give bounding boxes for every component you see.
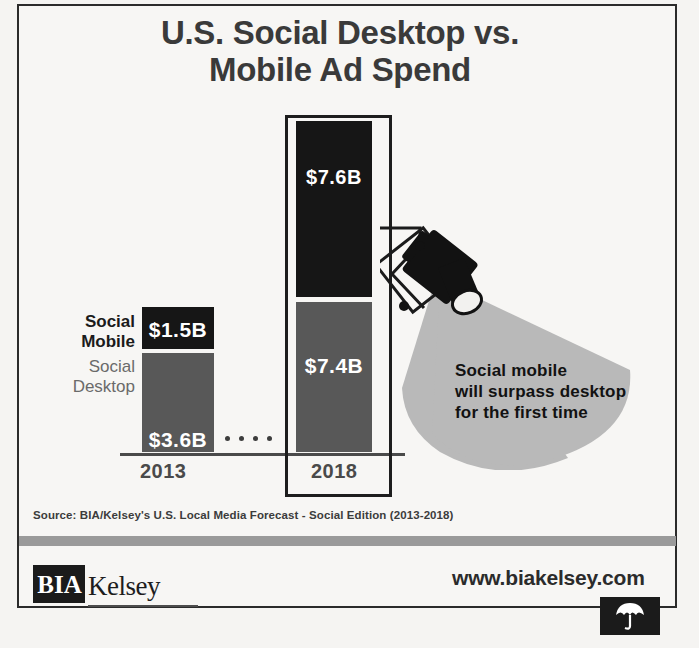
bar-segment-desktop-2013: $3.6B — [142, 353, 214, 452]
spotlight-icon — [380, 220, 680, 470]
website-url[interactable]: www.biakelsey.com — [452, 566, 645, 590]
legend-label-social-desktop: Social Desktop — [43, 357, 135, 397]
highlight-box-2018 — [285, 115, 392, 497]
bar-value-desktop-2013: $3.6B — [142, 428, 214, 452]
umbrella-icon — [600, 597, 660, 635]
callout-text: Social mobile will surpass desktop for t… — [455, 360, 670, 423]
logo-mark-text: BIA — [37, 571, 82, 599]
callout-line-2: will surpass desktop — [455, 381, 670, 402]
infographic-page: U.S. Social Desktop vs. Mobile Ad Spend … — [0, 0, 699, 648]
source-note: Source: BIA/Kelsey's U.S. Local Media Fo… — [33, 509, 454, 521]
axis-label-2013: 2013 — [140, 460, 187, 483]
bar-segment-mobile-2013: $1.5B — [142, 307, 214, 349]
callout-line-1: Social mobile — [455, 360, 670, 381]
axis-label-2018: 2018 — [311, 460, 358, 483]
legend-label-social-mobile: Social Mobile — [43, 312, 135, 352]
spotlight-illustration — [380, 220, 680, 470]
logo-underline — [88, 605, 198, 607]
callout-line-3: for the first time — [455, 402, 670, 423]
ellipsis-dots-icon — [225, 436, 285, 444]
bar-value-mobile-2013: $1.5B — [142, 318, 214, 342]
footer-divider — [19, 536, 676, 546]
logo-wordmark: Kelsey — [88, 571, 160, 602]
